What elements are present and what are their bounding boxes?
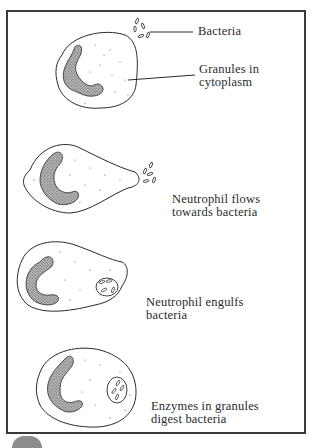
- granules-label-line2: cytoplasm: [199, 76, 252, 89]
- stage-1-neutrophil: [56, 18, 195, 108]
- bacteria-icon: [134, 18, 150, 38]
- bottom-decoration: [12, 436, 42, 448]
- stage-2-caption-line2: towards bacteria: [172, 206, 257, 219]
- stage-3-neutrophil: [17, 242, 127, 311]
- stage-4-neutrophil: [36, 348, 136, 427]
- bacteria-icon: [143, 162, 156, 183]
- stage-3-caption-line2: bacteria: [146, 309, 187, 322]
- stage-2-neutrophil: [23, 144, 155, 213]
- stage-4-caption-line2: digest bacteria: [151, 413, 227, 426]
- bacteria-label: Bacteria: [198, 25, 241, 38]
